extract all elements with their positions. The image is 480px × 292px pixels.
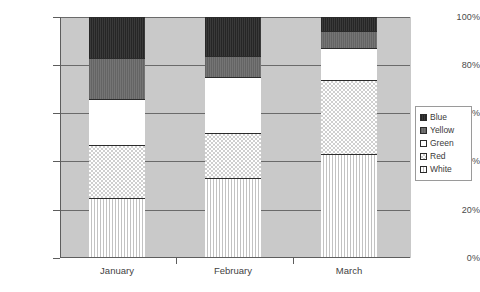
x-tick-mark-1 [176,258,177,264]
bar-segment-january-blue[interactable] [89,17,145,58]
bar-segment-march-red[interactable] [321,80,377,155]
x-tick-label-february: February [188,266,278,276]
bar-segment-february-red[interactable] [205,133,261,179]
y-tick-mark-40 [53,161,60,162]
legend-swatch-red-icon [420,153,427,160]
y-tick-label-80: 80% [434,61,480,70]
bar-january[interactable] [89,17,145,258]
y-tick-mark-20 [53,210,60,211]
bar-segment-february-green[interactable] [205,77,261,132]
x-tick-label-march: March [304,266,394,276]
y-tick-label-100: 100% [434,13,480,22]
legend-label-blue: Blue [430,113,447,122]
bar-segment-february-white[interactable] [205,178,261,258]
bar-segment-january-yellow[interactable] [89,58,145,99]
bar-segment-march-green[interactable] [321,48,377,79]
bar-segment-march-yellow[interactable] [321,31,377,48]
legend: Blue Yellow Green Red White [415,106,472,181]
legend-label-white: White [430,165,452,174]
y-tick-mark-100 [53,17,60,18]
legend-item-blue[interactable]: Blue [420,111,468,124]
bar-march[interactable] [321,17,377,258]
legend-label-green: Green [430,139,454,148]
x-tick-mark-2 [293,258,294,264]
legend-swatch-blue-icon [420,114,427,121]
legend-swatch-white-icon [420,166,427,173]
legend-label-yellow: Yellow [430,126,454,135]
chart-container: 100% 80% 60% 40% 20% 0% January February… [0,0,480,292]
bar-segment-january-white[interactable] [89,198,145,258]
bar-segment-january-red[interactable] [89,145,145,198]
y-tick-mark-0 [53,258,60,259]
y-tick-mark-60 [53,113,60,114]
bar-segment-march-white[interactable] [321,154,377,258]
y-tick-mark-80 [53,65,60,66]
bar-segment-january-green[interactable] [89,99,145,145]
bar-segment-february-blue[interactable] [205,17,261,56]
bar-segment-march-blue[interactable] [321,17,377,31]
x-tick-label-january: January [72,266,162,276]
bar-february[interactable] [205,17,261,258]
legend-item-white[interactable]: White [420,163,468,176]
legend-item-green[interactable]: Green [420,137,468,150]
legend-item-yellow[interactable]: Yellow [420,124,468,137]
y-tick-label-20: 20% [434,206,480,215]
legend-swatch-yellow-icon [420,127,427,134]
legend-item-red[interactable]: Red [420,150,468,163]
bar-segment-february-yellow[interactable] [205,56,261,78]
legend-swatch-green-icon [420,140,427,147]
y-tick-label-0: 0% [434,254,480,263]
legend-label-red: Red [430,152,446,161]
